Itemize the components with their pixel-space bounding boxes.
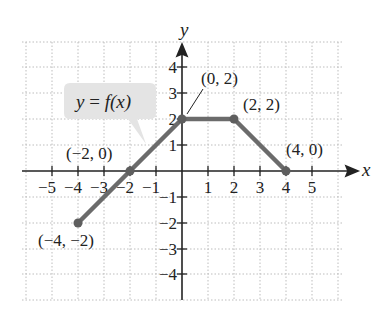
point-neg2-0 (126, 167, 135, 176)
svg-text:(0, 2): (0, 2) (201, 69, 238, 88)
svg-text:1: 1 (169, 136, 178, 155)
svg-text:(4, 0): (4, 0) (286, 140, 323, 159)
svg-text:4: 4 (282, 178, 291, 197)
svg-text:3: 3 (169, 84, 178, 103)
svg-text:5: 5 (308, 178, 317, 197)
svg-text:1: 1 (204, 178, 213, 197)
function-callout: y = f(x) (64, 83, 156, 144)
point-neg4-neg2 (74, 219, 83, 228)
svg-text:−4: −4 (64, 178, 83, 197)
svg-text:−4: −4 (159, 265, 178, 284)
y-axis-arrow-icon (177, 44, 187, 56)
callout-label: y = f(x) (74, 91, 131, 113)
point-0-2 (178, 115, 187, 124)
svg-text:−2: −2 (159, 214, 177, 233)
x-axis-label: x (361, 159, 371, 180)
axes (22, 44, 358, 300)
x-tick-labels: −5 −4 −3 −2 −1 1 2 3 4 5 (38, 178, 316, 197)
point-4-0 (282, 167, 291, 176)
svg-text:3: 3 (256, 178, 265, 197)
svg-text:(−2, 0): (−2, 0) (66, 144, 112, 163)
svg-text:4: 4 (169, 58, 178, 77)
svg-text:−1: −1 (142, 178, 160, 197)
svg-text:−1: −1 (159, 188, 177, 207)
x-axis-arrow-icon (346, 166, 358, 176)
svg-text:(2, 2): (2, 2) (243, 95, 280, 114)
svg-text:2: 2 (230, 178, 239, 197)
point-2-2 (230, 115, 239, 124)
svg-text:(−4, −2): (−4, −2) (38, 231, 94, 250)
y-axis-label: y (178, 19, 189, 40)
function-graph: y = f(x) −5 −4 −3 −2 −1 1 2 (0, 0, 380, 313)
svg-text:−3: −3 (159, 240, 177, 259)
svg-text:−5: −5 (38, 178, 56, 197)
